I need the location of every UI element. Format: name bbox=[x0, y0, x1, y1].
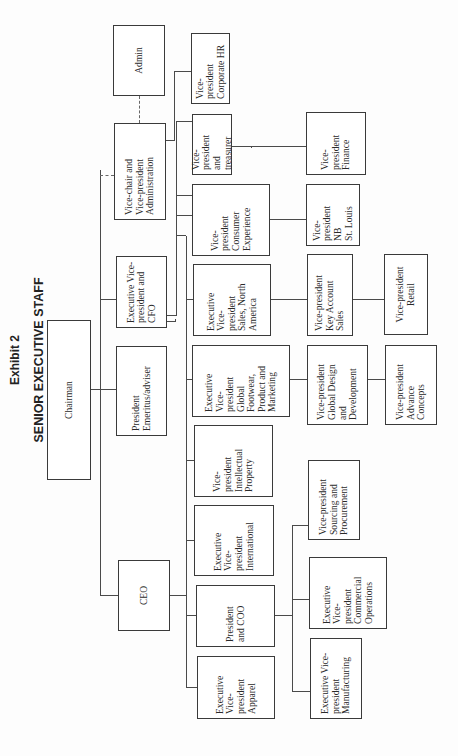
connector bbox=[368, 379, 385, 380]
node-label: President Emeritus/adviser bbox=[131, 366, 152, 431]
connector bbox=[166, 140, 174, 141]
connector bbox=[186, 236, 187, 688]
connector bbox=[353, 299, 384, 300]
connector bbox=[292, 691, 310, 692]
node-admin: Admin bbox=[113, 25, 165, 96]
connector bbox=[167, 321, 175, 322]
node-evp-commercial-operations: Executive Vice- president Commercial Ope… bbox=[309, 557, 387, 629]
node-president-emeritus: President Emeritus/adviser bbox=[116, 346, 167, 436]
node-vp-nb-st-louis: Vice- president NB St. Louis bbox=[306, 184, 360, 246]
dotted-connector bbox=[139, 96, 140, 123]
node-label: Vice-president Key Account Sales bbox=[314, 275, 346, 331]
node-label: Vice-president Advance Concepts bbox=[395, 364, 427, 420]
connector bbox=[176, 122, 177, 216]
connector bbox=[175, 319, 176, 320]
connector bbox=[292, 599, 309, 600]
node-vp-sourcing-procurement: Vice-president Sourcing and Procurement bbox=[308, 460, 360, 540]
node-vp-finance: Vice- president Finance bbox=[306, 112, 366, 175]
node-label: Executive Vice- president and CFO bbox=[126, 262, 158, 323]
connector bbox=[186, 299, 193, 300]
node-vp-key-account-sales: Vice-president Key Account Sales bbox=[307, 254, 353, 336]
connector bbox=[271, 299, 307, 300]
connector bbox=[176, 215, 192, 216]
node-ceo: CEO bbox=[118, 560, 170, 631]
node-evp-sales-north-america: Executive Vice- president Sales, North A… bbox=[193, 264, 271, 336]
connector bbox=[176, 235, 186, 236]
node-label: Vice- president Intellectual Property bbox=[212, 449, 254, 492]
node-label: Admin bbox=[134, 47, 145, 74]
connector bbox=[91, 389, 100, 390]
node-label: Executive Vice- president Sales, North A… bbox=[206, 284, 259, 331]
connector bbox=[100, 389, 116, 390]
node-label: Executive Vice- president International bbox=[213, 522, 255, 571]
node-label: Vice- president Finance bbox=[320, 135, 352, 170]
connector bbox=[290, 379, 307, 380]
connector bbox=[176, 216, 177, 316]
node-vp-corporate-hr: Vice- president Corporate HR bbox=[191, 33, 230, 104]
connector bbox=[100, 170, 101, 596]
connector bbox=[174, 72, 175, 141]
node-label: Executive Vice- president Apparel bbox=[215, 676, 257, 714]
connector bbox=[186, 540, 194, 541]
node-evp-apparel: Executive Vice- president Apparel bbox=[197, 656, 275, 719]
node-label: Vice- president and treasurer bbox=[191, 135, 233, 170]
node-label: Chairman bbox=[64, 381, 75, 419]
node-evp-international: Executive Vice- president International bbox=[194, 505, 274, 576]
node-label: Vice-president Retail bbox=[395, 267, 416, 323]
connector bbox=[175, 320, 176, 322]
connector bbox=[176, 121, 192, 122]
dotted-connector bbox=[100, 175, 114, 176]
node-chairman: Chairman bbox=[47, 320, 91, 480]
node-vice-chair-administration: Vice-chair and Vice-president Administra… bbox=[114, 123, 166, 220]
node-label: Vice-president Sourcing and Procurement bbox=[318, 479, 350, 535]
node-label: Vice-chair and Vice-president Administra… bbox=[124, 157, 156, 215]
node-evp-global-footwear: Executive Vice- president Global Footwea… bbox=[192, 345, 290, 417]
connector bbox=[275, 615, 292, 616]
connector bbox=[186, 615, 196, 616]
connector bbox=[232, 146, 306, 147]
node-evp-cfo: Executive Vice- president and CFO bbox=[116, 256, 167, 328]
node-label: CEO bbox=[139, 586, 150, 605]
node-label: President and COO bbox=[225, 605, 246, 642]
node-vp-global-design: Vice-president Global Design and Develop… bbox=[307, 345, 368, 425]
node-label: Executive Vice- president Manufacturing bbox=[320, 653, 352, 714]
connector bbox=[292, 525, 308, 526]
node-label: Executive Vice- president Commercial Ope… bbox=[322, 577, 375, 624]
connector bbox=[186, 460, 194, 461]
connector bbox=[292, 526, 293, 692]
connector bbox=[174, 71, 191, 72]
node-label: Vice-president Global Design and Develop… bbox=[316, 364, 358, 420]
node-evp-manufacturing: Executive Vice- president Manufacturing bbox=[310, 638, 362, 719]
exhibit-label: Exhibit 2 bbox=[8, 210, 22, 510]
connector bbox=[170, 595, 186, 596]
node-label: Executive Vice- president Global Footwea… bbox=[204, 366, 278, 412]
node-label: Vice- president Corporate HR bbox=[195, 45, 227, 99]
org-chart-page: Exhibit 2 SENIOR EXECUTIVE STAFF bbox=[0, 0, 458, 756]
node-vp-intellectual-property: Vice- president Intellectual Property bbox=[194, 425, 273, 497]
connector bbox=[270, 219, 306, 220]
connector bbox=[176, 195, 192, 196]
connector bbox=[100, 299, 116, 300]
node-label: Vice- president Consumer Experience bbox=[210, 208, 252, 251]
node-vp-consumer-experience: Vice- president Consumer Experience bbox=[192, 184, 270, 256]
node-vp-treasurer: Vice- president and treasurer bbox=[192, 114, 232, 175]
node-president-coo: President and COO bbox=[196, 585, 275, 647]
connector bbox=[186, 687, 197, 688]
node-vp-advance-concepts: Vice-president Advance Concepts bbox=[385, 345, 437, 425]
chart-title: SENIOR EXECUTIVE STAFF bbox=[32, 210, 46, 510]
node-vp-retail: Vice-president Retail bbox=[384, 254, 428, 335]
node-label: Vice- president NB St. Louis bbox=[312, 206, 354, 241]
